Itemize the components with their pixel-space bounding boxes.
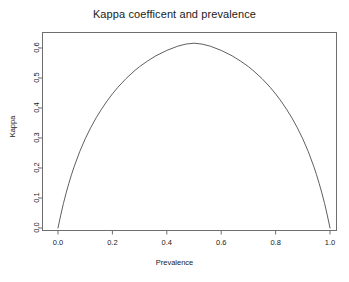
- y-tick-label: 0.4: [32, 97, 41, 119]
- y-tick-label: 0.3: [32, 127, 41, 149]
- kappa-curve: [58, 43, 330, 228]
- y-tick-label: 0.2: [32, 157, 41, 179]
- x-tick-label: 0.4: [152, 238, 182, 247]
- y-tick-label: 0.0: [32, 217, 41, 239]
- x-tick-label: 0.6: [206, 238, 236, 247]
- chart-figure: Kappa coefficent and prevalence 0.00.20.…: [0, 0, 349, 282]
- x-axis-tick-marks: [58, 231, 330, 235]
- y-axis-title: Kappa: [8, 99, 17, 155]
- x-tick-label: 0.2: [97, 238, 127, 247]
- x-tick-label: 1.0: [315, 238, 345, 247]
- x-axis-title: Prevalence: [0, 258, 349, 267]
- y-tick-label: 0.6: [32, 37, 41, 59]
- y-tick-label: 0.5: [32, 67, 41, 89]
- x-tick-label: 0.8: [261, 238, 291, 247]
- x-tick-label: 0.0: [43, 238, 73, 247]
- plot-box-frame: [43, 33, 337, 231]
- y-tick-label: 0.1: [32, 187, 41, 209]
